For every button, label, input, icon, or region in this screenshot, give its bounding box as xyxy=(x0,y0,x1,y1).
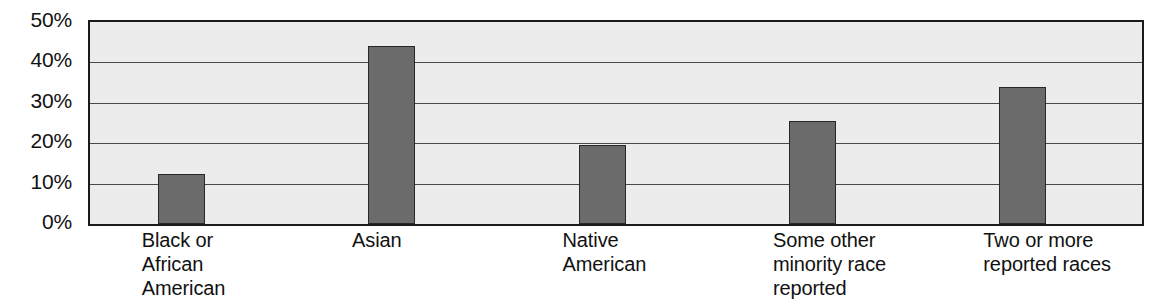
x-axis-category-label: Black or African American xyxy=(142,228,226,300)
x-axis-category-label: Two or more reported races xyxy=(983,228,1111,276)
y-axis-tick-label: 50% xyxy=(0,9,72,30)
y-axis: 0%10%20%30%40%50% xyxy=(0,0,80,305)
bar xyxy=(579,145,626,224)
y-axis-tick-label: 20% xyxy=(0,130,72,151)
bar xyxy=(999,87,1046,224)
x-axis-category-label: Asian xyxy=(352,228,402,252)
x-axis: Black or African AmericanAsianNative Ame… xyxy=(88,228,1140,305)
bar-chart: 0%10%20%30%40%50% Black or African Ameri… xyxy=(0,0,1160,305)
bar xyxy=(368,46,415,224)
bars-layer xyxy=(90,22,1142,224)
plot-area xyxy=(88,20,1144,226)
bar xyxy=(789,121,836,224)
y-axis-tick-label: 10% xyxy=(0,171,72,192)
y-axis-tick-label: 40% xyxy=(0,49,72,70)
y-axis-tick-label: 30% xyxy=(0,90,72,111)
x-axis-category-label: Native American xyxy=(563,228,647,276)
bar xyxy=(158,174,205,224)
x-axis-category-label: Some other minority race reported xyxy=(773,228,886,300)
y-axis-tick-label: 0% xyxy=(0,211,72,232)
